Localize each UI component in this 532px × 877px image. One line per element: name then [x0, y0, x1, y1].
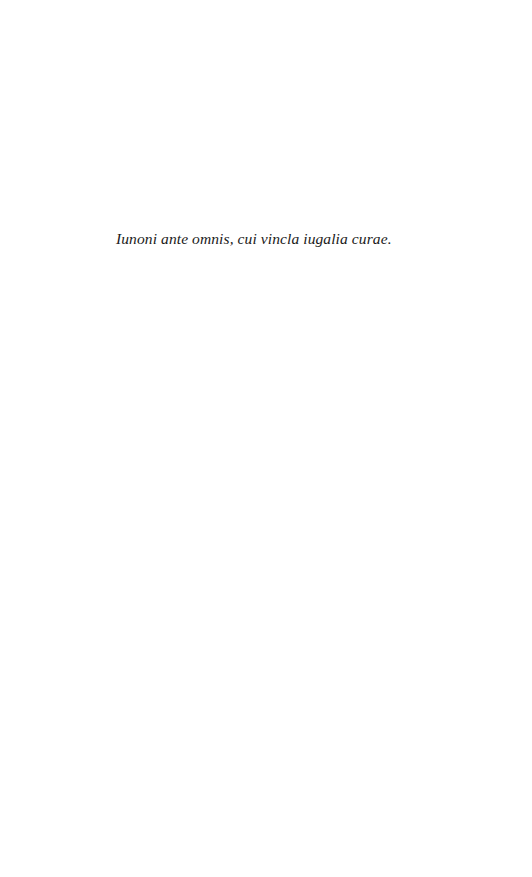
- document-page: Iunoni ante omnis, cui vincla iugalia cu…: [0, 0, 532, 877]
- epigraph-text: Iunoni ante omnis, cui vincla iugalia cu…: [116, 229, 392, 249]
